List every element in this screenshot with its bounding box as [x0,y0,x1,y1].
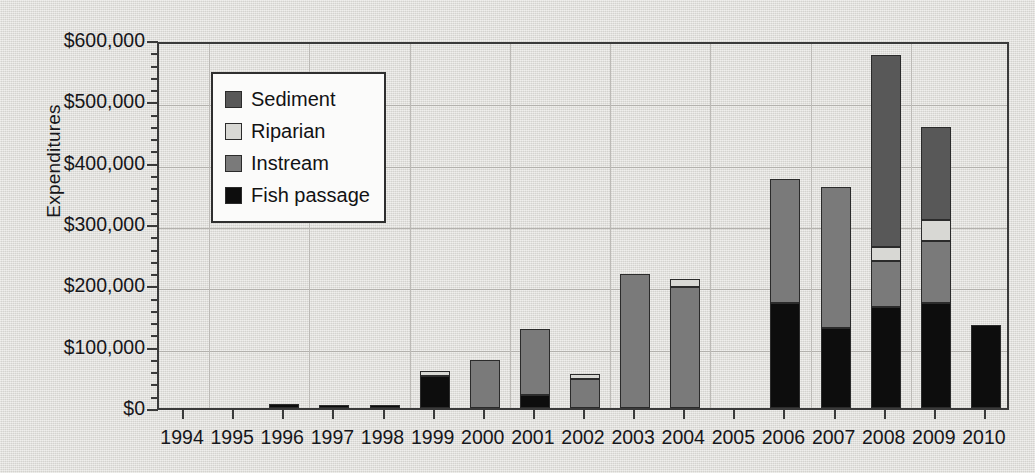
x-tick [834,410,836,419]
x-tick-label: 2004 [662,426,705,449]
legend-label: Riparian [251,120,325,143]
x-tick [483,410,485,419]
x-tick-label: 2002 [561,426,604,449]
bar-segment-sediment[interactable] [921,127,951,220]
bar-stack-2002[interactable] [570,374,600,408]
bar-stack-2000[interactable] [470,360,500,408]
x-tick-label: 2003 [611,426,654,449]
y-tick-label: $200,000 [5,274,145,297]
y-tick-label: $500,000 [5,90,145,113]
x-tick-label: 2001 [511,426,554,449]
bar-segment-instream[interactable] [770,179,800,302]
bar-stack-2007[interactable] [821,187,851,408]
x-tick-label: 2009 [912,426,955,449]
gridline-vertical [911,44,912,408]
bar-segment-instream[interactable] [620,274,650,408]
bar-segment-fish-passage[interactable] [319,405,349,408]
x-tick [733,410,735,419]
bar-segment-riparian[interactable] [921,220,951,241]
x-tick [383,410,385,419]
bar-segment-instream[interactable] [821,187,851,328]
bar-segment-instream[interactable] [670,287,700,408]
x-tick [984,410,986,419]
chart-legend: SedimentRiparianInstreamFish passage [211,72,386,223]
gridline-vertical [209,44,210,408]
x-tick-label: 1995 [210,426,253,449]
chart-figure: Expenditures $0$100,000$200,000$300,000$… [0,0,1035,473]
bar-segment-fish-passage[interactable] [871,307,901,408]
x-tick-label: 2005 [712,426,755,449]
gridline-vertical [811,44,812,408]
legend-label: Fish passage [251,184,370,207]
y-tick-label: $100,000 [5,336,145,359]
bar-segment-instream[interactable] [871,261,901,307]
x-tick-label: 2000 [461,426,504,449]
bar-stack-2004[interactable] [670,279,700,408]
bar-stack-2009[interactable] [921,127,951,408]
y-tick-label: $600,000 [5,29,145,52]
x-tick-label: 1994 [160,426,203,449]
y-tick-label: $0 [5,397,145,420]
bar-stack-1998[interactable] [370,406,400,408]
bar-segment-fish-passage[interactable] [821,328,851,408]
x-tick-label: 2010 [962,426,1005,449]
x-tick [783,410,785,419]
bar-segment-instream[interactable] [520,329,550,395]
bar-segment-riparian[interactable] [570,374,600,379]
x-tick [683,410,685,419]
gridline-vertical [710,44,711,408]
legend-label: Instream [251,152,329,175]
x-tick [282,410,284,419]
bar-stack-1999[interactable] [420,371,450,408]
bar-segment-fish-passage[interactable] [370,405,400,408]
gridline-vertical [610,44,611,408]
x-tick [182,410,184,419]
x-tick [232,410,234,419]
x-tick-label: 1996 [261,426,304,449]
legend-item-instream[interactable]: Instream [225,147,370,179]
bar-stack-2001[interactable] [520,329,550,408]
bar-segment-sediment[interactable] [871,55,901,246]
gridline-vertical [410,44,411,408]
x-tick [884,410,886,419]
bar-segment-fish-passage[interactable] [269,404,299,408]
legend-swatch-icon [225,187,242,204]
x-tick [332,410,334,419]
bar-stack-1997[interactable] [319,406,349,408]
bar-stack-2008[interactable] [871,55,901,408]
x-tick-label: 2006 [762,426,805,449]
bar-segment-instream[interactable] [921,241,951,302]
bar-stack-2003[interactable] [620,274,650,408]
bar-segment-fish-passage[interactable] [770,303,800,408]
bar-segment-fish-passage[interactable] [921,303,951,408]
bar-segment-riparian[interactable] [871,247,901,262]
bar-stack-2010[interactable] [971,325,1001,408]
bar-segment-fish-passage[interactable] [971,325,1001,408]
y-tick-label: $300,000 [5,213,145,236]
gridline-vertical [510,44,511,408]
x-tick-label: 2007 [812,426,855,449]
x-tick [934,410,936,419]
x-tick-label: 1999 [411,426,454,449]
legend-swatch-icon [225,123,242,140]
bar-segment-riparian[interactable] [420,371,450,376]
legend-item-riparian[interactable]: Riparian [225,115,370,147]
x-tick-label: 1997 [311,426,354,449]
bar-segment-instream[interactable] [570,379,600,408]
x-tick-label: 2008 [862,426,905,449]
legend-swatch-icon [225,91,242,108]
bar-segment-fish-passage[interactable] [520,395,550,408]
x-tick [583,410,585,419]
bar-stack-2006[interactable] [770,179,800,408]
x-tick-label: 1998 [361,426,404,449]
legend-item-fish-passage[interactable]: Fish passage [225,179,370,211]
legend-swatch-icon [225,155,242,172]
x-tick [533,410,535,419]
legend-item-sediment[interactable]: Sediment [225,83,370,115]
bar-segment-riparian[interactable] [670,279,700,287]
x-tick [633,410,635,419]
bar-stack-1996[interactable] [269,404,299,408]
bar-segment-instream[interactable] [470,360,500,408]
bar-segment-fish-passage[interactable] [420,376,450,409]
legend-label: Sediment [251,88,336,111]
